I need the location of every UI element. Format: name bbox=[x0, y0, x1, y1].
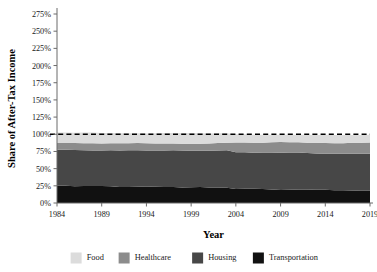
legend-item-food[interactable]: Food bbox=[71, 253, 105, 264]
legend-swatch bbox=[192, 253, 203, 264]
y-tick-label: 200% bbox=[32, 62, 51, 71]
legend-label: Food bbox=[87, 253, 105, 262]
legend-item-healthcare[interactable]: Healthcare bbox=[119, 253, 172, 264]
y-tick-label: 275% bbox=[32, 10, 51, 19]
legend-label: Healthcare bbox=[135, 253, 172, 262]
y-tick-label: 150% bbox=[32, 96, 51, 105]
y-tick-label: 250% bbox=[32, 27, 51, 36]
y-tick-label: 175% bbox=[32, 79, 51, 88]
area-band-housing bbox=[57, 150, 370, 191]
x-tick-label: 2009 bbox=[272, 210, 288, 219]
x-tick-label: 1994 bbox=[138, 210, 154, 219]
legend-label: Transportation bbox=[269, 253, 319, 262]
x-tick-label: 1989 bbox=[94, 210, 110, 219]
area-bands bbox=[57, 132, 370, 203]
x-tick-label: 2014 bbox=[317, 210, 333, 219]
legend-swatch bbox=[253, 253, 264, 264]
y-tick-label: 225% bbox=[32, 44, 51, 53]
y-tick-label: 25% bbox=[36, 182, 51, 191]
legend-swatch bbox=[119, 253, 130, 264]
x-tick-label: 2019 bbox=[362, 210, 377, 219]
x-tick-label: 1999 bbox=[183, 210, 199, 219]
stacked-area-chart: 0%25%50%75%100%125%150%175%200%225%250%2… bbox=[0, 0, 377, 272]
y-tick-label: 0% bbox=[40, 199, 51, 208]
x-tick-label: 1984 bbox=[49, 210, 65, 219]
legend-item-housing[interactable]: Housing bbox=[192, 253, 237, 264]
y-tick-label: 50% bbox=[36, 165, 51, 174]
legend-label: Housing bbox=[208, 253, 237, 262]
x-axis-title: Year bbox=[203, 229, 224, 240]
x-tick-label: 2004 bbox=[228, 210, 244, 219]
chart-figure: 0%25%50%75%100%125%150%175%200%225%250%2… bbox=[0, 0, 377, 272]
y-axis-title: Share of After-Tax Income bbox=[6, 49, 17, 168]
legend-item-transportation[interactable]: Transportation bbox=[253, 253, 319, 264]
y-tick-label: 75% bbox=[36, 147, 51, 156]
y-tick-label: 100% bbox=[32, 130, 51, 139]
legend-swatch bbox=[71, 253, 82, 264]
y-tick-label: 125% bbox=[32, 113, 51, 122]
